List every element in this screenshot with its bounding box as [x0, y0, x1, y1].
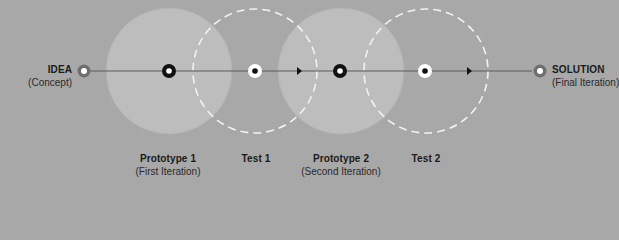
test-2-marker-core: [422, 68, 428, 74]
stage-subtitle: (First Iteration): [135, 165, 200, 178]
arrow-right-icon: [467, 67, 472, 75]
solution-subtitle: (Final Iteration): [552, 76, 619, 89]
idea-title: IDEA: [28, 63, 72, 76]
stage-label-prototype-2: Prototype 2 (Second Iteration): [301, 152, 381, 178]
test-1-marker-core: [252, 68, 258, 74]
stage-label-test-2: Test 2: [412, 152, 441, 165]
idea-endpoint-core: [81, 68, 87, 74]
idea-subtitle: (Concept): [28, 76, 72, 89]
stage-title: Test 2: [412, 152, 441, 165]
solution-endpoint-core: [537, 68, 543, 74]
stage-title: Test 1: [242, 152, 271, 165]
stage-label-test-1: Test 1: [242, 152, 271, 165]
solution-title: SOLUTION: [552, 63, 619, 76]
idea-label: IDEA (Concept): [28, 63, 72, 89]
solution-label: SOLUTION (Final Iteration): [552, 63, 619, 89]
stage-subtitle: (Second Iteration): [301, 165, 381, 178]
stage-title: Prototype 1: [135, 152, 200, 165]
prototype-2-marker-core: [337, 68, 343, 74]
stage-title: Prototype 2: [301, 152, 381, 165]
prototype-1-marker-core: [166, 68, 172, 74]
stage-label-prototype-1: Prototype 1 (First Iteration): [135, 152, 200, 178]
